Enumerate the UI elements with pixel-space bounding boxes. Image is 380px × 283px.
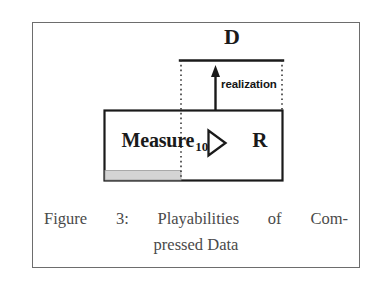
figure-root: D realization Measure 10 R Figure 3: Pla… xyxy=(0,0,380,283)
expression-right-operand: R xyxy=(252,128,267,153)
expression-process-name: Measure xyxy=(122,129,195,152)
caption-word: Com- xyxy=(310,206,348,232)
caption-word: Figure xyxy=(44,206,87,232)
bracket-label-d: D xyxy=(204,26,260,48)
realization-label: realization xyxy=(221,78,277,90)
caption-word: Playabilities xyxy=(158,206,240,232)
caption-word: 3: xyxy=(116,206,129,232)
caption-word: of xyxy=(268,206,282,232)
caption-line-1: Figure 3: Playabilities of Com- xyxy=(44,206,348,232)
expression-subscript: 10 xyxy=(195,139,208,155)
expression-line: Measure 10 R xyxy=(122,128,268,153)
process-box-expression: Measure 10 R xyxy=(104,110,283,171)
caption-line-2: pressed Data xyxy=(44,232,348,258)
figure-caption: Figure 3: Playabilities of Com- pressed … xyxy=(44,206,348,258)
